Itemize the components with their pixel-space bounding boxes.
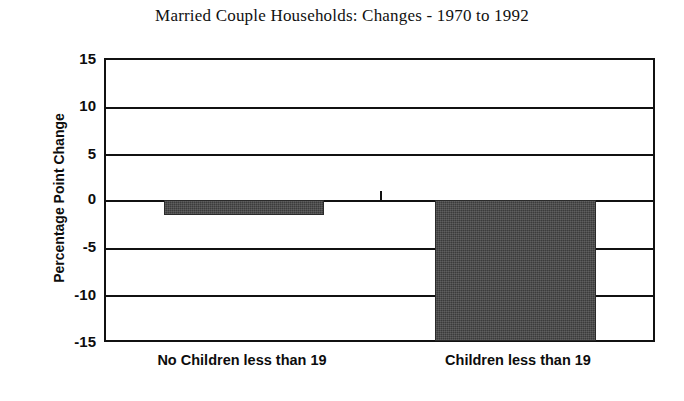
y-tick-label-neg10: -10 [52, 286, 96, 303]
bar-children-less-than-19[interactable] [435, 200, 596, 341]
y-tick-label-neg15: -15 [52, 333, 96, 350]
gridline-10 [106, 107, 653, 109]
plot-area [104, 58, 655, 342]
category-label-no-children-less-than-19: No Children less than 19 [104, 352, 380, 368]
category-label-children-less-than-19: Children less than 19 [380, 352, 656, 368]
y-tick-label-10: 10 [52, 97, 96, 114]
y-tick-label-15: 15 [52, 50, 96, 67]
gridline-5 [106, 154, 653, 156]
chart-page: Married Couple Households: Changes - 197… [0, 0, 684, 401]
y-tick-label-5: 5 [52, 145, 96, 162]
y-tick-label-neg5: -5 [52, 238, 96, 255]
y-tick-label-0: 0 [52, 190, 96, 207]
category-separator-tick [380, 191, 382, 200]
chart-title: Married Couple Households: Changes - 197… [0, 6, 684, 26]
bar-no-children-less-than-19[interactable] [164, 200, 324, 215]
